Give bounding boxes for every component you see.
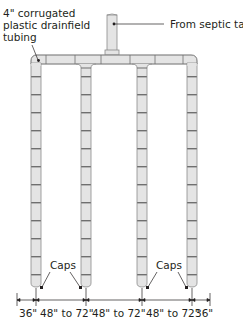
dim-label-2: 48" to 72" [40,307,94,319]
caps-label-left: Caps [50,259,76,271]
drain-leg-1 [31,63,41,287]
tubing-label-line3: tubing [3,31,37,43]
drain-leg-3 [132,64,152,287]
header-pipe [31,55,197,64]
drainfield-diagram: 4" corrugated plastic drainfield tubing … [0,0,243,336]
caps-callout-left: Caps [42,259,80,287]
tubing-callout: 4" corrugated plastic drainfield tubing [3,7,90,62]
dim-label-4: 48" to 72" [146,307,200,319]
caps-label-right: Caps [156,259,182,271]
inlet-callout: From septic tank [113,18,243,30]
tubing-label-line2: plastic drainfield [3,19,90,31]
dim-label-5: 36" [195,307,213,319]
drain-leg-2 [76,64,96,287]
inlet-label: From septic tank [170,18,243,30]
dim-label-1: 36" [19,307,37,319]
dimension-line [17,288,210,306]
tubing-label-line1: 4" corrugated [3,7,76,19]
inlet-pipe [105,14,119,55]
dim-label-3: 48" to 72" [92,307,146,319]
caps-callout-right: Caps [148,259,186,287]
drain-leg-4 [187,63,197,287]
